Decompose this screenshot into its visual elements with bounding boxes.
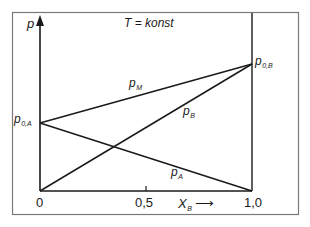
label-p0B-main: p — [255, 54, 262, 68]
label-p-B-main: p — [183, 104, 190, 118]
x-axis-label-sub: B — [187, 205, 192, 212]
raoult-law-diagram — [0, 0, 310, 227]
x-tick-label-0: 0 — [36, 196, 43, 209]
label-p0A-sub: 0,A — [21, 120, 32, 127]
label-p-A: pA — [171, 166, 183, 178]
x-axis-arrow-icon: ⟶ — [195, 196, 214, 211]
label-p0B: p0,B — [255, 55, 273, 67]
diagram-frame — [13, 13, 299, 215]
label-p-A-main: p — [171, 165, 178, 179]
label-p-A-sub: A — [178, 173, 183, 180]
label-p-M-sub: M — [136, 84, 142, 91]
temperature-annotation-text: T = konst — [124, 16, 174, 30]
label-p0B-sub: 0,B — [262, 62, 273, 69]
y-axis-label: p — [27, 17, 34, 30]
label-p-B: pB — [183, 105, 195, 117]
x-axis-label: XB ⟶ — [178, 197, 214, 210]
x-tick-label-1-0: 1,0 — [244, 196, 262, 209]
line-p-B — [40, 64, 252, 191]
x-axis-label-main: X — [178, 196, 187, 211]
temperature-annotation: T = konst — [124, 17, 174, 29]
label-p0A: p0,A — [14, 113, 32, 125]
label-p-B-sub: B — [190, 112, 195, 119]
line-p-M — [40, 64, 252, 123]
label-p0A-main: p — [14, 112, 21, 126]
label-p-M-main: p — [129, 76, 136, 90]
line-p-A — [40, 123, 252, 191]
y-axis-arrow-icon — [36, 15, 44, 26]
x-tick-label-0-5: 0,5 — [135, 196, 153, 209]
label-p-M: pM — [129, 77, 142, 89]
